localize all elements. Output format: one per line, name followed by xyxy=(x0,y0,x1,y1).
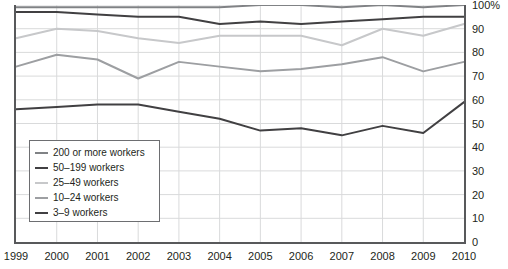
y-axis-tick-label: 90 xyxy=(472,23,484,34)
x-axis-tick-label: 2010 xyxy=(452,250,476,262)
y-axis-tick-label: 0 xyxy=(472,237,478,248)
legend-item-label: 3–9 workers xyxy=(53,207,107,218)
legend-swatch-icon xyxy=(35,197,48,199)
x-axis-tick-label: 2001 xyxy=(85,250,109,262)
legend-swatch-icon xyxy=(35,212,48,214)
legend-swatch-icon xyxy=(35,152,48,154)
legend-item-label: 50–199 workers xyxy=(53,162,124,173)
legend-item-label: 200 or more workers xyxy=(53,147,145,158)
x-axis-tick-label: 2005 xyxy=(248,250,272,262)
y-axis-tick-label: 100% xyxy=(472,0,500,11)
y-axis-tick-label: 60 xyxy=(472,94,484,105)
legend-item: 200 or more workers xyxy=(35,145,159,160)
legend-item: 10–24 workers xyxy=(35,190,159,205)
line-chart-figure: 0102030405060708090100% 1999200020012002… xyxy=(0,0,508,269)
y-axis-tick-label: 20 xyxy=(472,189,484,200)
y-axis-tick-label: 70 xyxy=(472,71,484,82)
x-axis-tick-label: 2000 xyxy=(44,250,68,262)
legend-swatch-icon xyxy=(35,167,48,169)
y-axis-tick-label: 80 xyxy=(472,47,484,58)
y-axis-tick-label: 10 xyxy=(472,213,484,224)
y-axis-tick-label: 30 xyxy=(472,165,484,176)
x-axis-tick-label: 2007 xyxy=(330,250,354,262)
y-axis-tick-label: 40 xyxy=(472,142,484,153)
x-axis-tick-label: 2002 xyxy=(126,250,150,262)
x-axis-tick-label: 2003 xyxy=(167,250,191,262)
legend-item-label: 10–24 workers xyxy=(53,192,119,203)
x-axis-tick-label: 1999 xyxy=(4,250,28,262)
legend-swatch-icon xyxy=(35,182,48,184)
y-axis-tick-label: 50 xyxy=(472,118,484,129)
x-axis-tick-label: 2008 xyxy=(370,250,394,262)
x-axis-tick-label: 2009 xyxy=(411,250,435,262)
legend-item: 3–9 workers xyxy=(35,205,159,220)
legend-item: 25–49 workers xyxy=(35,175,159,190)
legend-item: 50–199 workers xyxy=(35,160,159,175)
legend-item-label: 25–49 workers xyxy=(53,177,119,188)
x-axis-tick-label: 2006 xyxy=(289,250,313,262)
x-axis-tick-label: 2004 xyxy=(207,250,231,262)
chart-legend: 200 or more workers50–199 workers25–49 w… xyxy=(29,140,160,222)
